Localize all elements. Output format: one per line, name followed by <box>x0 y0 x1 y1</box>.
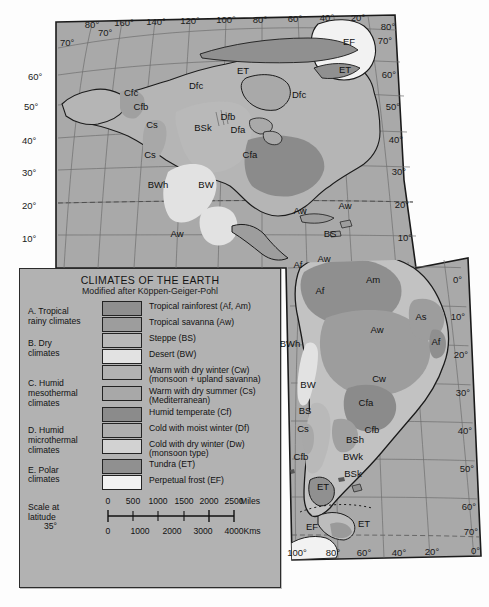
lat-label-right: 50° <box>460 463 475 474</box>
lat-label-left: 50° <box>24 101 39 112</box>
legend-title: CLIMATES OF THE EARTH <box>26 274 274 286</box>
legend-group-name: E. Polarclimates <box>26 466 102 486</box>
scale-bar-block: Scale at latitude 35° 050010001500200025… <box>26 494 274 540</box>
legend-color-swatch <box>102 407 142 422</box>
lat-label-left: 30° <box>22 167 37 178</box>
climate-code-label: Af <box>294 259 303 270</box>
climate-code-label: BW <box>198 179 213 190</box>
climate-code-label: BWh <box>148 179 169 190</box>
legend-group: B. DryclimatesSteppe (BS)Desert (BW) <box>26 333 274 365</box>
scale-unit-kms: Kms <box>243 526 260 536</box>
climate-code-label: Aw <box>317 253 330 264</box>
legend-color-swatch <box>102 475 142 490</box>
lat-label-right: 30° <box>392 166 407 177</box>
legend-color-swatch <box>102 301 142 316</box>
climate-code-label: Cfa <box>359 397 375 408</box>
climate-code-label: ET <box>358 518 370 529</box>
climate-code-label: BSh <box>346 434 364 445</box>
legend-row[interactable]: Humid temperate (Cf) <box>102 407 274 422</box>
scale-tick-miles: 1500 <box>174 496 193 506</box>
legend-row-label: Tropical savanna (Aw) <box>149 317 234 327</box>
climate-code-label: Dfa <box>231 124 247 135</box>
legend-row-label: Warm with dry winter (Cw) (monsoon + upl… <box>149 365 261 385</box>
climate-code-label: Cfa <box>243 149 259 160</box>
lon-label-bottom: 40° <box>392 547 407 558</box>
lon-label-bottom: 100° <box>287 547 307 558</box>
lat-label-right: 10° <box>398 232 413 243</box>
legend-group-rows: Tundra (ET)Perpetual frost (EF) <box>102 459 274 491</box>
climate-code-label: As <box>415 311 426 322</box>
lon-label-top: 80° <box>381 21 396 32</box>
legend-row[interactable]: Desert (BW) <box>102 349 274 364</box>
climate-code-label: BS <box>324 228 337 239</box>
lat-label-right: 30° <box>456 387 471 398</box>
scale-caption: Scale at latitude 35° <box>26 503 102 533</box>
legend-row[interactable]: Tropical savanna (Aw) <box>102 317 274 332</box>
climate-code-label: Cw <box>372 373 386 384</box>
legend-group-rows: Warm with dry winter (Cw) (monsoon + upl… <box>102 365 274 423</box>
legend-group-rows: Tropical rainforest (Af, Am)Tropical sav… <box>102 301 274 333</box>
legend-row[interactable]: Warm with dry summer (Cs) (Mediterranean… <box>102 386 274 406</box>
legend-row-label: Warm with dry summer (Cs) (Mediterranean… <box>149 386 256 406</box>
legend-row[interactable]: Warm with dry winter (Cw) (monsoon + upl… <box>102 365 274 385</box>
legend-row[interactable]: Tropical rainforest (Af, Am) <box>102 301 274 316</box>
scale-tick-kms: 3000 <box>193 526 212 536</box>
lat-label-left: 60° <box>28 71 43 82</box>
legend-group-name: C. Humidmesothermalclimates <box>26 379 102 408</box>
scale-unit-miles: Miles <box>240 496 260 506</box>
scale-tick-kms: 2000 <box>162 526 181 536</box>
lat-label-right: 0° <box>471 545 480 556</box>
legend-row[interactable]: Steppe (BS) <box>102 333 274 348</box>
lon-label-top: 100° <box>216 14 236 25</box>
legend-heading: CLIMATES OF THE EARTH Modified after Köp… <box>26 274 274 297</box>
lat-label-left: 10° <box>22 233 37 244</box>
climate-code-label: Cfb <box>134 101 149 112</box>
legend-group: E. PolarclimatesTundra (ET)Perpetual fro… <box>26 459 274 491</box>
scale-bars: 05001000150020002500 Miles 0100020003000… <box>102 494 274 540</box>
scale-tick-miles: 500 <box>126 496 141 506</box>
climate-code-label: BS <box>299 405 312 416</box>
lon-label-top: 140° <box>146 16 166 27</box>
climate-code-label: ET <box>317 481 329 492</box>
climate-code-label: Cfc <box>124 87 139 98</box>
map-legend: CLIMATES OF THE EARTH Modified after Köp… <box>19 268 281 588</box>
legend-group-name: D. Humidmicrothermalclimates <box>26 426 102 455</box>
legend-row-label: Perpetual frost (EF) <box>149 475 224 485</box>
legend-group-name: B. Dryclimates <box>26 339 102 359</box>
climate-code-label: Cfb <box>294 451 309 462</box>
climate-code-label: Aw <box>293 205 306 216</box>
legend-color-swatch <box>102 459 142 474</box>
lon-label-top: 40° <box>320 12 335 23</box>
lat-label-right: 60° <box>462 501 477 512</box>
scale-tick-miles: 2000 <box>199 496 218 506</box>
legend-row[interactable]: Cold with moist winter (Df) <box>102 423 274 438</box>
lat-label-right: 50° <box>386 101 401 112</box>
legend-row[interactable]: Perpetual frost (EF) <box>102 475 274 490</box>
lat-label-right: 70° <box>378 35 393 46</box>
legend-color-swatch <box>102 365 142 380</box>
legend-row[interactable]: Cold with dry winter (Dw) (monsoon type) <box>102 439 274 459</box>
lat-label-right: 20° <box>454 349 469 360</box>
legend-row[interactable]: Tundra (ET) <box>102 459 274 474</box>
climate-code-label: Cfb <box>365 424 380 435</box>
lon-label-top: 20° <box>351 12 366 23</box>
scale-tick-miles: 0 <box>106 496 111 506</box>
climate-code-label: Cs <box>146 119 158 130</box>
climate-code-label: EF <box>343 36 355 47</box>
scale-line-1: Scale at <box>28 502 59 512</box>
lon-label-top: 160° <box>114 17 134 28</box>
lat-label-right: 40° <box>389 134 404 145</box>
legend-row-label: Cold with moist winter (Df) <box>149 423 249 433</box>
lat-label-right: 20° <box>395 199 410 210</box>
lon-label-top: 120° <box>180 15 200 26</box>
scale-tick-kms: 0 <box>106 526 111 536</box>
lat-label-right: 40° <box>458 425 473 436</box>
scale-tick-kms: 4000 <box>224 526 243 536</box>
lon-label-bottom: 20° <box>425 546 440 557</box>
climate-code-label: Cs <box>144 149 156 160</box>
legend-group-name: A. Tropicalrainy climates <box>26 307 102 327</box>
lat-label-left: 40° <box>22 135 37 146</box>
screenshot-root: 70° 60° 50° 40° 30° 20° 10° 70° 70° 60° … <box>0 0 489 607</box>
climate-code-label: Aw <box>338 200 351 211</box>
lat-label-right: 70° <box>464 526 479 537</box>
